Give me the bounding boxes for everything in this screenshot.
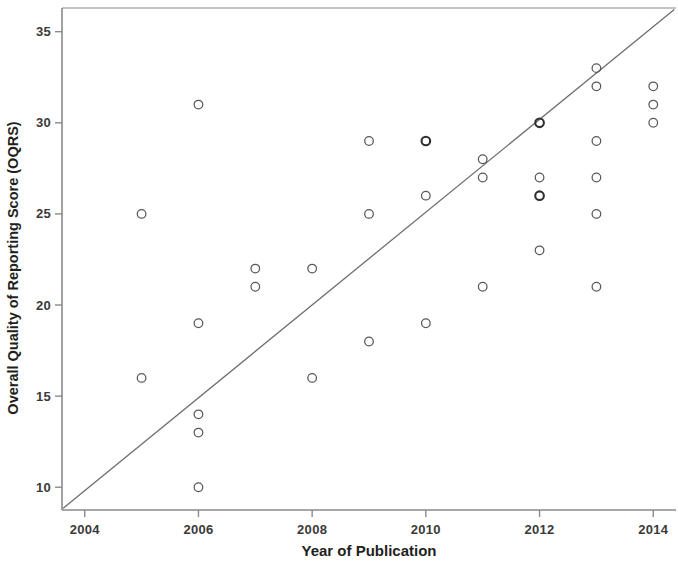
x-tick-label: 2008 (297, 522, 327, 537)
chart-canvas: 101520253035 200420062008201020122014 Ye… (0, 0, 678, 568)
x-axis-title: Year of Publication (301, 542, 436, 559)
y-tick-label: 30 (36, 115, 51, 130)
x-tick-label: 2014 (638, 522, 669, 537)
y-tick-label: 15 (36, 389, 51, 404)
y-tick-label: 10 (36, 480, 51, 495)
y-tick-label: 25 (36, 206, 51, 221)
y-axis-ticks: 101520253035 (36, 24, 62, 495)
x-tick-label: 2010 (411, 522, 441, 537)
x-tick-label: 2004 (70, 522, 101, 537)
x-tick-label: 2006 (183, 522, 213, 537)
y-tick-label: 35 (36, 24, 51, 39)
x-tick-label: 2012 (524, 522, 554, 537)
y-tick-label: 20 (36, 298, 51, 313)
scatter-plot-figure: 101520253035 200420062008201020122014 Ye… (0, 0, 678, 568)
y-axis-title: Overall Quality of Reporting Score (OQRS… (5, 121, 21, 414)
x-axis-ticks: 200420062008201020122014 (70, 510, 669, 537)
